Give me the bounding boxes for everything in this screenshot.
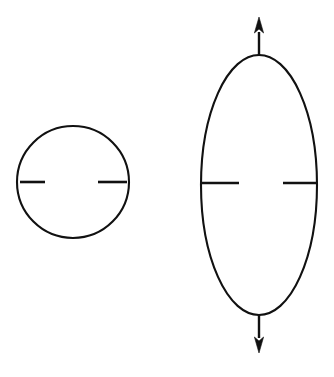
figure-canvas: Cell deformation diagram: undeformed sph… bbox=[0, 0, 334, 377]
tension-arrow-up bbox=[254, 17, 263, 56]
left-shape-group bbox=[17, 126, 129, 238]
tension-arrow-down bbox=[254, 315, 263, 353]
figure-svg: Cell deformation diagram: undeformed sph… bbox=[0, 0, 334, 377]
tension-arrow-up-head bbox=[254, 17, 263, 33]
deformed-ellipse bbox=[201, 55, 317, 315]
right-shape-group bbox=[201, 17, 317, 353]
tension-arrow-down-head bbox=[254, 337, 263, 353]
